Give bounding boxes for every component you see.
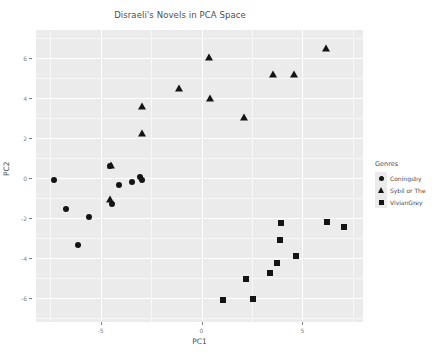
x-tick-mark xyxy=(202,322,203,325)
legend-key-square-icon xyxy=(375,196,387,208)
data-point xyxy=(322,45,330,52)
legend-label: Coningsby xyxy=(390,175,421,182)
gridline-minor-horizontal xyxy=(36,118,363,119)
data-point xyxy=(138,130,146,137)
gridline-major-horizontal xyxy=(36,218,363,219)
data-point xyxy=(116,182,122,188)
gridline-major-vertical xyxy=(101,30,102,322)
data-point xyxy=(267,270,273,276)
data-point xyxy=(243,276,249,282)
chart-title: Disraeli's Novels in PCA Space xyxy=(0,10,360,20)
data-point xyxy=(277,237,283,243)
data-point xyxy=(107,162,115,169)
gridline-minor-horizontal xyxy=(36,238,363,239)
data-point xyxy=(75,242,81,248)
x-axis-ticks: -505 xyxy=(36,322,363,336)
gridline-minor-horizontal xyxy=(36,278,363,279)
data-point xyxy=(220,297,226,303)
y-tick-mark xyxy=(29,218,32,219)
y-tick-mark xyxy=(29,58,32,59)
plot-panel xyxy=(36,30,363,322)
y-tick-label: 6 xyxy=(23,55,27,62)
legend-key-circle-icon xyxy=(375,172,387,184)
gridline-major-horizontal xyxy=(36,298,363,299)
y-tick-label: -2 xyxy=(21,215,27,222)
legend-rows: ConingsbySybil or TheVivianGrey xyxy=(375,172,437,208)
data-point xyxy=(240,114,248,121)
y-tick-label: -6 xyxy=(21,295,27,302)
y-tick-mark xyxy=(29,178,32,179)
data-point xyxy=(63,206,69,212)
y-tick-mark xyxy=(29,298,32,299)
data-point xyxy=(274,260,280,266)
x-tick-mark xyxy=(101,322,102,325)
legend-label: VivianGrey xyxy=(390,199,423,206)
data-point xyxy=(175,85,183,92)
legend-title: Genres xyxy=(375,160,437,168)
legend-key-triangle-icon xyxy=(375,184,387,196)
gridline-major-horizontal xyxy=(36,58,363,59)
data-point xyxy=(138,103,146,110)
x-axis-title: PC1 xyxy=(36,337,363,346)
data-point xyxy=(106,196,114,203)
data-point xyxy=(139,177,145,183)
gridline-major-horizontal xyxy=(36,178,363,179)
gridline-minor-horizontal xyxy=(36,78,363,79)
legend-label: Sybil or The xyxy=(390,187,426,194)
y-tick-label: 4 xyxy=(23,95,27,102)
x-tick-label: 0 xyxy=(200,327,204,334)
y-axis-ticks: -6-4-20246 xyxy=(0,30,32,322)
data-point xyxy=(129,179,135,185)
x-tick-mark xyxy=(302,322,303,325)
gridline-major-vertical xyxy=(302,30,303,322)
data-point xyxy=(278,220,284,226)
gridline-minor-vertical xyxy=(353,30,354,322)
data-point xyxy=(324,219,330,225)
gridline-minor-vertical xyxy=(50,30,51,322)
data-point xyxy=(86,214,92,220)
legend-item[interactable]: VivianGrey xyxy=(375,196,437,208)
gridline-minor-horizontal xyxy=(36,198,363,199)
gridline-minor-horizontal xyxy=(36,158,363,159)
gridline-major-vertical xyxy=(202,30,203,322)
data-point xyxy=(293,253,299,259)
y-tick-label: -4 xyxy=(21,255,27,262)
legend: Genres ConingsbySybil or TheVivianGrey xyxy=(375,160,437,208)
x-tick-label: -5 xyxy=(98,327,104,334)
legend-item[interactable]: Sybil or The xyxy=(375,184,437,196)
data-point xyxy=(269,71,277,78)
gridline-major-horizontal xyxy=(36,258,363,259)
y-tick-label: 0 xyxy=(23,175,27,182)
y-tick-label: 2 xyxy=(23,135,27,142)
y-tick-mark xyxy=(29,258,32,259)
scatter-chart: Disraeli's Novels in PCA Space -6-4-2024… xyxy=(0,0,439,361)
gridline-minor-horizontal xyxy=(36,38,363,39)
data-point xyxy=(51,177,57,183)
y-tick-mark xyxy=(29,98,32,99)
legend-item[interactable]: Coningsby xyxy=(375,172,437,184)
y-tick-mark xyxy=(29,138,32,139)
gridline-major-horizontal xyxy=(36,98,363,99)
data-point xyxy=(341,224,347,230)
gridline-minor-vertical xyxy=(151,30,152,322)
data-point xyxy=(205,54,213,61)
data-point xyxy=(250,296,256,302)
gridline-minor-horizontal xyxy=(36,318,363,319)
gridline-minor-vertical xyxy=(252,30,253,322)
data-point xyxy=(206,95,214,102)
gridline-major-horizontal xyxy=(36,138,363,139)
data-point xyxy=(290,71,298,78)
y-axis-title: PC2 xyxy=(2,161,11,176)
x-tick-label: 5 xyxy=(301,327,305,334)
